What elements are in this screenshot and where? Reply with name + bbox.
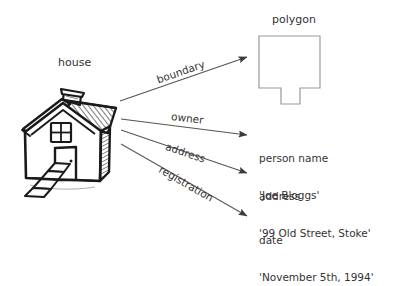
house-illustration <box>22 89 116 197</box>
value-date-val: 'November 5th, 1994' <box>259 271 374 283</box>
node-label-polygon: polygon <box>272 14 316 27</box>
house-window-icon <box>51 123 71 142</box>
value-date-key: date <box>259 234 374 246</box>
value-date: date 'November 5th, 1994' <box>259 209 374 286</box>
relationship-arrows <box>120 57 247 216</box>
node-label-house: house <box>58 57 91 70</box>
value-address-key: address <box>259 190 371 202</box>
polygon-shape <box>259 36 320 104</box>
value-person-name-key: person name <box>259 152 328 164</box>
